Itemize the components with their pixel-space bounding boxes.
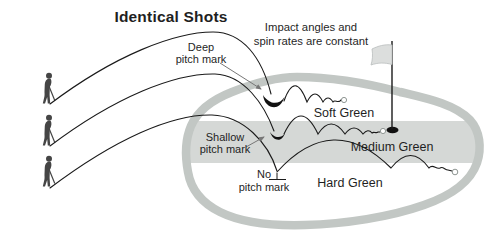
- label-shallow-pitch-mark: Shallow pitch mark: [200, 131, 251, 155]
- green-label-soft: Soft Green: [314, 106, 374, 120]
- label-shallow-line1: Shallow: [206, 131, 245, 143]
- golf-green-firmness-diagram: Identical Shots Impact angles and spin r…: [0, 0, 487, 233]
- green-label-medium: Medium Green: [351, 140, 434, 154]
- label-none-line2: pitch mark: [239, 181, 290, 193]
- golf-ball-icon-soft: [341, 97, 346, 102]
- flag-icon: [371, 45, 392, 65]
- annotation-line1: Impact angles and: [265, 21, 357, 33]
- golfer-icon: [43, 73, 55, 104]
- golf-ball-icon-hard: [452, 169, 458, 175]
- label-deep-line1: Deep: [188, 41, 214, 53]
- golfer-icon: [43, 156, 55, 187]
- annotation-line2: spin rates are constant: [254, 35, 369, 47]
- golf-ball-icon-medium: [380, 128, 385, 133]
- label-shallow-line2: pitch mark: [200, 143, 251, 155]
- green-label-hard: Hard Green: [317, 176, 382, 190]
- annotation-text: Impact angles and spin rates are constan…: [254, 21, 369, 47]
- label-none-line1: No: [257, 168, 271, 180]
- label-deep-pitch-mark: Deep pitch mark: [176, 41, 227, 65]
- page-title: Identical Shots: [114, 8, 227, 25]
- golfer-icon: [43, 115, 55, 146]
- label-deep-line2: pitch mark: [176, 53, 227, 65]
